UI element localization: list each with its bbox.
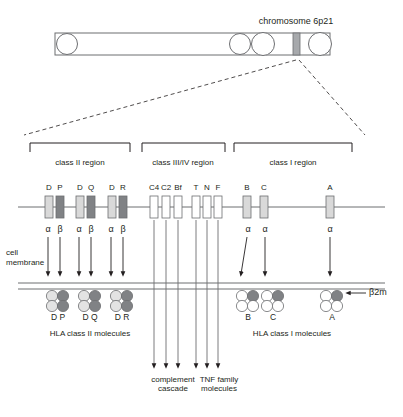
chain-label-alpha: α — [327, 224, 332, 234]
expression-arrows — [48, 237, 330, 274]
gene-box-b — [243, 196, 251, 218]
gene-label-c: C — [261, 184, 267, 193]
molecule-subunit-beta — [89, 290, 100, 301]
bracket-class-iii-iv — [142, 143, 225, 152]
caption-hla-class-i: HLA class I molecules — [253, 330, 331, 339]
molecule-subunit-beta — [121, 300, 132, 311]
class-i-molecules — [236, 290, 342, 311]
gene-label-d: D — [77, 184, 83, 193]
gene-label-c2: C2 — [161, 184, 171, 193]
cell-membrane-label: cell membrane — [6, 248, 44, 268]
chromosome-circle — [57, 34, 78, 55]
gene-box-n — [203, 196, 211, 218]
chain-label-alpha: α — [45, 224, 50, 234]
chromosome-circle — [252, 33, 275, 56]
gene-label-bf: Bf — [174, 184, 182, 193]
class-iii-descent-lines — [154, 220, 218, 366]
molecule-subunit-beta — [121, 290, 132, 301]
gene-box-p — [56, 196, 64, 218]
molecule-label-a: A — [329, 313, 335, 323]
region-brackets — [30, 143, 352, 152]
chromosome-circle — [230, 34, 251, 55]
gene-label-q: Q — [88, 184, 94, 193]
gene-box-c4 — [150, 196, 158, 218]
projection-lines — [24, 60, 365, 135]
molecule-subunit-alpha — [110, 290, 121, 301]
molecule-subunit-alpha — [236, 290, 247, 301]
gene-label-b: B — [244, 184, 249, 193]
gene-box-t — [192, 196, 200, 218]
gene-box-bf — [174, 196, 182, 218]
molecule-subunit-alpha — [236, 300, 247, 311]
gene-label-p: P — [57, 184, 62, 193]
caption-tnf-line2: molecules — [200, 385, 239, 394]
molecule-subunit-alpha — [46, 300, 57, 311]
cell-membrane — [18, 283, 385, 289]
molecule-subunit-alpha — [78, 300, 89, 311]
molecule-subunit-alpha — [331, 300, 342, 311]
gene-box-a — [326, 196, 334, 218]
molecule-subunit-b2m — [331, 290, 342, 301]
molecule-subunit-alpha — [247, 300, 258, 311]
gene-box-d — [108, 196, 116, 218]
molecule-subunit-b2m — [247, 290, 258, 301]
chain-label-beta: β — [88, 224, 93, 234]
molecule-label-c: C — [270, 313, 276, 323]
cell-membrane-label-line2: membrane — [6, 258, 44, 268]
gene-label-r: R — [120, 184, 126, 193]
gene-box-d — [76, 196, 84, 218]
b2m-label: β2m — [369, 287, 387, 297]
gene-label-t: T — [194, 184, 199, 193]
caption-complement-line2: cascade — [151, 385, 195, 394]
bracket-class-ii — [30, 143, 130, 152]
chromosome-band-6p21 — [293, 33, 300, 55]
bracket-class-i — [234, 143, 352, 152]
chromosome-bar — [55, 33, 332, 56]
caption-hla-class-ii: HLA class II molecules — [50, 330, 130, 339]
molecule-subunit-b2m — [272, 290, 283, 301]
diagram-svg — [0, 0, 403, 417]
class-ii-molecules — [46, 290, 132, 311]
molecule-label-dr: D R — [115, 313, 130, 323]
gene-label-a: A — [327, 184, 332, 193]
gene-label-f: F — [216, 184, 221, 193]
gene-box-d — [45, 196, 53, 218]
chain-label-beta: β — [120, 224, 125, 234]
molecule-label-dp: D P — [51, 313, 65, 323]
molecule-subunit-alpha — [261, 290, 272, 301]
chromosome-title: chromosome 6p21 — [259, 16, 334, 26]
molecule-subunit-alpha — [320, 290, 331, 301]
molecule-subunit-alpha — [46, 290, 57, 301]
region-label-class-i: class I region — [269, 159, 316, 168]
molecule-subunit-alpha — [78, 290, 89, 301]
molecule-subunit-alpha — [110, 300, 121, 311]
molecule-subunit-alpha — [272, 300, 283, 311]
molecule-subunit-alpha — [320, 300, 331, 311]
cell-membrane-label-line1: cell — [6, 248, 44, 258]
figure-canvas: chromosome 6p21 class II region class II… — [0, 0, 403, 417]
chain-label-alpha: α — [108, 224, 113, 234]
gene-label-d: D — [46, 184, 52, 193]
gene-box-f — [214, 196, 222, 218]
gene-box-r — [119, 196, 127, 218]
chromosome-circle — [309, 33, 332, 56]
region-label-class-iii-iv: class III/IV region — [152, 159, 213, 168]
molecule-subunit-beta — [89, 300, 100, 311]
molecule-subunit-beta — [57, 300, 68, 311]
molecule-label-dq: D Q — [82, 313, 97, 323]
chain-label-alpha: α — [245, 224, 250, 234]
gene-label-n: N — [204, 184, 210, 193]
chain-label-alpha: α — [76, 224, 81, 234]
arrow-b-alpha — [241, 237, 247, 274]
caption-complement-cascade: complement cascade — [151, 376, 195, 394]
molecule-label-b: B — [245, 313, 251, 323]
molecule-subunit-beta — [57, 290, 68, 301]
region-label-class-ii: class II region — [55, 159, 104, 168]
gene-box-q — [87, 196, 95, 218]
gene-box-c2 — [162, 196, 170, 218]
chain-label-beta: β — [57, 224, 62, 234]
gene-box-c — [260, 196, 268, 218]
chain-label-alpha: α — [262, 224, 267, 234]
molecule-subunit-alpha — [261, 300, 272, 311]
caption-tnf-family: TNF family molecules — [200, 376, 239, 394]
